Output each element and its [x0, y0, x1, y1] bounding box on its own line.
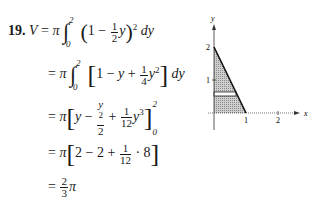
- y-axis-arrow-icon: [212, 24, 216, 30]
- representative-strip: [214, 92, 236, 96]
- x-axis-arrow-icon: [294, 111, 300, 115]
- y-tick-label: 1: [206, 76, 210, 85]
- region-graph: y x 2 1 1 2: [0, 0, 323, 207]
- x-axis-label: x: [303, 109, 308, 118]
- y-axis-label: y: [210, 14, 215, 23]
- y-tick-label: 2: [206, 43, 210, 52]
- x-tick-label: 2: [276, 116, 280, 125]
- x-tick-label: 1: [244, 116, 248, 125]
